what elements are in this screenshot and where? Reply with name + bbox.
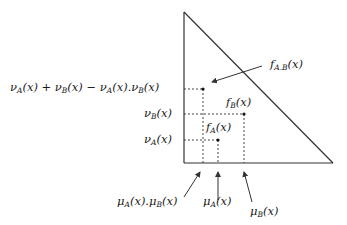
arrow-muAmuB xyxy=(184,172,200,197)
label-nu-sum: νA(x) + νB(x) − νA(x).νB(x) xyxy=(10,82,159,95)
label-nu-A: νA(x) xyxy=(144,134,172,147)
diagram-graphics xyxy=(0,0,347,225)
label-mu-B: μB(x) xyxy=(250,206,278,219)
point-fB xyxy=(242,112,245,115)
diagram-canvas: νA(x) + νB(x) − νA(x).νB(x) νB(x) νA(x) … xyxy=(0,0,347,225)
label-mu-A: μA(x) xyxy=(203,196,231,209)
point-fAB xyxy=(201,87,204,90)
label-nu-B: νB(x) xyxy=(144,108,172,121)
label-f-AB: fA.B(x) xyxy=(270,59,303,72)
arrow-muB xyxy=(244,172,252,202)
label-f-A: fA(x) xyxy=(206,122,231,135)
label-f-B: fB(x) xyxy=(226,97,251,110)
hypotenuse xyxy=(184,12,333,163)
label-mu-A-mu-B: μA(x).μB(x) xyxy=(117,196,177,209)
arrow-fAB xyxy=(212,66,262,82)
point-fA xyxy=(216,138,219,141)
